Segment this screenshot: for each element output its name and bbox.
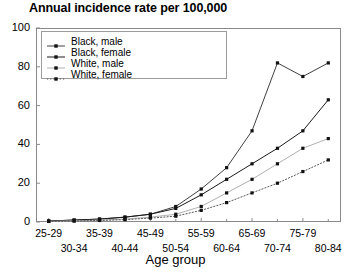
legend-item-label: Black, male xyxy=(71,37,123,47)
legend-item-label: Black, female xyxy=(71,48,131,58)
chart-figure: Annual incidence rate per 100,000 020406… xyxy=(0,0,351,275)
y-axis-tick-label: 40 xyxy=(0,137,30,149)
x-axis-tick-label: 25-29 xyxy=(35,227,62,239)
legend-line-marker-icon xyxy=(46,70,66,80)
legend-line-marker-icon xyxy=(46,37,66,47)
legend-line-marker-icon xyxy=(46,59,66,69)
legend-item: White, female xyxy=(46,69,132,80)
y-axis-tick-label: 20 xyxy=(0,176,30,188)
x-axis-tick-label: 45-49 xyxy=(137,227,164,239)
y-axis-tick-label: 80 xyxy=(0,60,30,72)
y-axis-tick-label: 60 xyxy=(0,99,30,111)
x-axis-title: Age group xyxy=(0,252,351,267)
legend-item-label: White, female xyxy=(71,70,132,80)
x-axis-tick-label: 55-59 xyxy=(188,227,215,239)
legend-item: Black, female xyxy=(46,47,131,58)
x-axis-tick-label: 35-39 xyxy=(86,227,113,239)
chart-title: Annual incidence rate per 100,000 xyxy=(29,1,227,15)
x-axis-tick-label: 65-69 xyxy=(239,227,266,239)
legend-item: White, male xyxy=(46,58,124,69)
y-axis-tick-label: 100 xyxy=(0,21,30,33)
legend-item-label: White, male xyxy=(71,59,124,69)
legend-line-marker-icon xyxy=(46,48,66,58)
chart-legend: Black, maleBlack, femaleWhite, maleWhite… xyxy=(41,31,227,79)
x-axis-tick-label: 75-79 xyxy=(289,227,316,239)
legend-item: Black, male xyxy=(46,36,123,47)
y-axis-tick-label: 0 xyxy=(0,215,30,227)
